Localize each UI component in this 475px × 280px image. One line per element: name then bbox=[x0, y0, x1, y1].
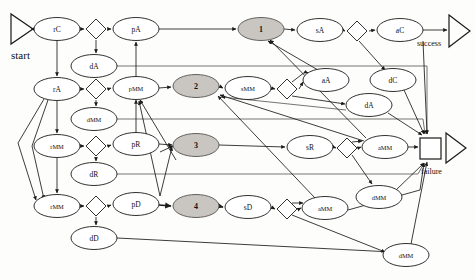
decision-branch-rC[interactable] bbox=[86, 19, 106, 39]
decision-branch-rMM1[interactable] bbox=[86, 136, 106, 156]
node-dA-2[interactable]: dA bbox=[346, 94, 392, 117]
node-dMM-1-label: dMM bbox=[87, 116, 102, 123]
node-state-2[interactable]: 2 bbox=[173, 75, 219, 98]
node-pR-label: pR bbox=[132, 140, 141, 149]
node-sD-label: sD bbox=[244, 203, 253, 212]
node-dA-1-label: dA bbox=[89, 62, 99, 71]
node-dMM-2-label: dMM bbox=[372, 194, 387, 201]
node-state-1-label: 1 bbox=[259, 25, 263, 34]
node-dA-1[interactable]: dA bbox=[71, 55, 117, 78]
node-state-2-label: 2 bbox=[194, 82, 198, 91]
start-port bbox=[11, 14, 33, 44]
node-dD[interactable]: dD bbox=[71, 227, 117, 250]
node-pD-label: pD bbox=[131, 200, 141, 209]
node-rMM-1-label: rMM bbox=[50, 143, 64, 150]
success-label: success bbox=[417, 39, 441, 48]
node-state-4[interactable]: 4 bbox=[173, 195, 219, 218]
node-dMM-1[interactable]: dMM bbox=[71, 108, 117, 131]
node-aC-label: aC bbox=[396, 26, 404, 35]
node-dC[interactable]: dC bbox=[370, 69, 416, 92]
node-sA-label: sA bbox=[316, 26, 325, 35]
node-aA-label: aA bbox=[322, 76, 331, 85]
start-label: start bbox=[11, 49, 30, 61]
node-dMM-2[interactable]: dMM bbox=[356, 186, 402, 209]
diagram-canvas: rC pA 1 sA aC dA rA pMM 2 sMM aA dC bbox=[0, 0, 475, 280]
node-rA-label: rA bbox=[53, 85, 61, 94]
node-aMM-1-label: aMM bbox=[378, 144, 393, 151]
node-sMM-label: sMM bbox=[241, 85, 255, 92]
node-rMM-2-label: rMM bbox=[50, 203, 64, 210]
diagram-svg: rC pA 1 sA aC dA rA pMM 2 sMM aA dC bbox=[0, 0, 475, 280]
node-rC[interactable]: rC bbox=[34, 18, 80, 41]
node-pR[interactable]: pR bbox=[113, 133, 159, 156]
node-rMM-1[interactable]: rMM bbox=[34, 135, 80, 158]
node-state-3-label: 3 bbox=[194, 141, 198, 150]
node-pMM-label: pMM bbox=[129, 85, 144, 92]
node-dD-label: dD bbox=[89, 234, 99, 243]
node-state-4-label: 4 bbox=[194, 202, 198, 211]
node-rA[interactable]: rA bbox=[34, 78, 80, 101]
node-dR-label: dR bbox=[90, 170, 99, 179]
node-rMM-2[interactable]: rMM bbox=[34, 195, 80, 218]
node-pMM[interactable]: pMM bbox=[113, 77, 159, 100]
node-dA-2-label: dA bbox=[364, 101, 374, 110]
node-sR-label: sR bbox=[306, 143, 314, 152]
node-pA[interactable]: pA bbox=[113, 18, 159, 41]
node-aMM-2-label: aMM bbox=[318, 205, 333, 212]
decision-branch-sA[interactable] bbox=[347, 21, 367, 41]
node-aMM-2[interactable]: aMM bbox=[302, 197, 348, 220]
decision-branch-rMM2[interactable] bbox=[86, 196, 106, 216]
node-state-3[interactable]: 3 bbox=[173, 134, 219, 157]
node-aA[interactable]: aA bbox=[303, 69, 349, 92]
node-sA[interactable]: sA bbox=[297, 19, 343, 42]
node-sR[interactable]: sR bbox=[287, 136, 333, 159]
node-dMM-3-label: dMM bbox=[399, 252, 414, 259]
success-port bbox=[449, 15, 470, 47]
decision-branch-sR[interactable] bbox=[337, 138, 357, 158]
node-rC-label: rC bbox=[53, 25, 61, 34]
node-sD[interactable]: sD bbox=[225, 196, 271, 219]
node-aMM-1[interactable]: aMM bbox=[362, 136, 408, 159]
node-dC-label: dC bbox=[389, 76, 398, 85]
node-dMM-3[interactable]: dMM bbox=[383, 244, 429, 267]
failure-junction-box bbox=[420, 138, 441, 159]
node-pD[interactable]: pD bbox=[113, 193, 159, 216]
failure-label: failure bbox=[421, 167, 442, 176]
failure-port bbox=[446, 133, 466, 163]
node-state-1[interactable]: 1 bbox=[238, 18, 284, 41]
decision-branch-rA[interactable] bbox=[86, 79, 106, 99]
node-dR[interactable]: dR bbox=[71, 163, 117, 186]
node-pA-label: pA bbox=[131, 25, 141, 34]
node-sMM[interactable]: sMM bbox=[225, 77, 271, 100]
